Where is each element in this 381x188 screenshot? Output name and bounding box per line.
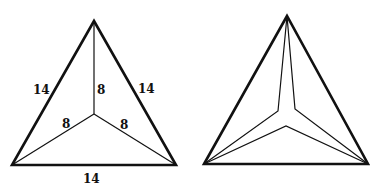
diagram-canvas: 14 8 14 8 8 14 (0, 0, 381, 188)
label-right-side: 14 (138, 82, 155, 96)
label-spoke-top: 8 (97, 83, 105, 97)
spoke-right (94, 114, 176, 165)
left-figure: 14 8 14 8 8 14 (12, 21, 176, 186)
spoke-left (12, 114, 94, 165)
label-left-side: 14 (33, 83, 50, 97)
label-spoke-right: 8 (120, 118, 128, 132)
right-figure (204, 16, 368, 164)
label-spoke-left: 8 (62, 117, 70, 131)
outer-triangle (204, 16, 368, 164)
label-bottom-side: 14 (83, 172, 100, 186)
